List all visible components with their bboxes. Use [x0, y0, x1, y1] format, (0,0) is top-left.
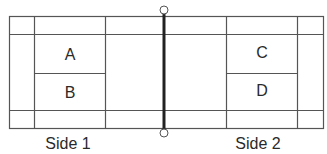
zone-label-a: A [65, 46, 76, 63]
zone-label-d: D [256, 82, 268, 99]
bottom-net-post-icon [160, 129, 168, 137]
zone-label-c: C [256, 44, 268, 61]
side-2-label: Side 2 [235, 135, 280, 152]
net [160, 6, 168, 137]
court-outline [10, 17, 324, 129]
zone-label-b: B [65, 84, 76, 101]
top-net-post-icon [160, 6, 168, 14]
court-lines [10, 17, 324, 129]
side-1-label: Side 1 [45, 135, 90, 152]
court-diagram: A B C D Side 1 Side 2 [0, 0, 327, 154]
